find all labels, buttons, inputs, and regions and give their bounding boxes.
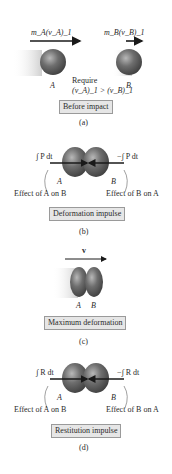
impulse-label-right: −∫ P dt [117,153,138,161]
ball-B-deformed [83,147,109,177]
ball-B-max [85,267,103,297]
ball-label-A-c: A [76,302,81,310]
caption-d: (d) [79,444,88,452]
ball-B-restitution [83,363,109,393]
panel-c-graphics [52,259,106,298]
caption-c: (c) [79,338,88,346]
label-deformation-impulse: Deformation impulse [49,207,125,221]
impulse-label-left: ∫ P dt [36,153,53,161]
label-maximum-deformation: Maximum deformation [44,316,126,330]
require-condition: (v_A)_1 > (v_B)_1 [72,87,133,95]
label-restitution-impulse: Restitution impulse [51,424,121,438]
require-text: Require [72,77,97,85]
ball-A [40,49,66,75]
effect-label-left: Effect of A on B [14,190,66,198]
label-before-impact: Before impact [59,100,113,114]
momentum-label-B: m_B(v_B)_1 [104,29,144,37]
effect-label-right: Effect of B on A [106,190,159,198]
panel-a-graphics [12,41,142,76]
diagram-graphics [0,0,172,474]
ball-label-B-b: B [111,178,116,186]
effect-label-right-d: Effect of B on A [106,406,159,414]
ball-label-B-c: B [91,302,96,310]
ball-label-B: B [126,82,131,90]
effect-label-left-d: Effect of A on B [14,406,66,414]
restitution-label-left: ∫ R dt [36,369,54,377]
ball-label-A-d: A [57,394,62,402]
caption-a: (a) [79,119,88,127]
restitution-label-right: −∫ R dt [117,369,139,377]
momentum-label-A: m_A(v_A)_1 [31,29,71,37]
ball-label-A: A [50,82,55,90]
ball-label-B-d: B [111,394,116,402]
motion-blur-A [12,50,42,76]
ball-label-A-b: A [57,178,62,186]
velocity-label: v [82,247,86,255]
caption-b: (b) [79,228,88,236]
ball-B [116,49,142,75]
